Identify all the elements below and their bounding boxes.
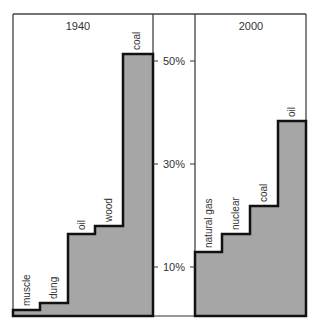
label-oil-1940: oil — [76, 220, 87, 230]
label-dung: dung — [48, 277, 59, 299]
label-muscle: muscle — [21, 274, 32, 306]
label-coal-2000: coal — [258, 184, 269, 202]
chart-svg: 50% 30% 10% 1940 2000 muscle dung oil wo… — [0, 0, 322, 328]
label-oil-2000: oil — [286, 107, 297, 117]
label-nuclear: nuclear — [230, 197, 241, 230]
y-tick-30: 30% — [163, 158, 185, 170]
label-wood: wood — [103, 198, 114, 223]
area-1940 — [13, 54, 153, 316]
y-tick-10: 10% — [163, 261, 185, 273]
label-coal-1940: coal — [131, 32, 142, 50]
panel-title-2000: 2000 — [239, 20, 263, 32]
label-natural-gas: natural gas — [203, 199, 214, 248]
panel-title-1940: 1940 — [66, 20, 90, 32]
y-tick-50: 50% — [163, 55, 185, 67]
